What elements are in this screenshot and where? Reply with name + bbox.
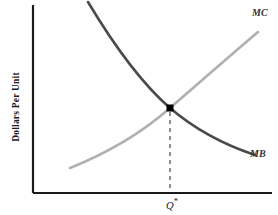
q-star-letter: Q <box>166 200 174 211</box>
chart-plot-area <box>0 0 278 215</box>
mb-curve-label: MB <box>250 148 266 159</box>
equilibrium-marker <box>167 105 174 112</box>
y-axis-title: Dollars Per Unit <box>11 47 21 167</box>
marginal-cost-benefit-chart: Dollars Per Unit MC MB Q* <box>0 0 278 215</box>
mb-curve <box>88 2 255 155</box>
mc-curve <box>70 32 258 168</box>
q-star-asterisk: * <box>174 196 178 206</box>
mc-curve-label: MC <box>252 7 268 18</box>
q-star-axis-label: Q* <box>160 196 184 211</box>
